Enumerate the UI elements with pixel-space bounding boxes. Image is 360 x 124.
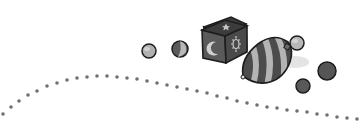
toy-illustration (0, 0, 360, 124)
small-light-ball (290, 36, 304, 50)
toy-block-front (202, 20, 247, 63)
spinning-top (241, 36, 292, 86)
dark-marble-right (318, 62, 336, 80)
light-marble (142, 44, 156, 58)
swirl-marble (172, 41, 188, 57)
dark-marble-bottom (296, 79, 310, 93)
